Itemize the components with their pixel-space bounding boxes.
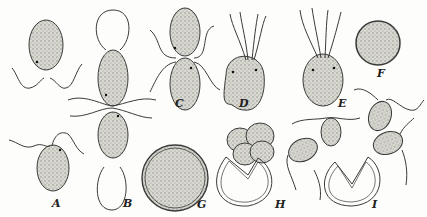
- label-e: E: [338, 98, 346, 109]
- label-f: F: [377, 68, 385, 79]
- label-h: H: [275, 199, 285, 210]
- biology-figure: A B C D E F G H I: [0, 0, 427, 217]
- cell-a-lower: [9, 133, 84, 191]
- label-i: I: [372, 199, 377, 210]
- label-d: D: [239, 98, 249, 109]
- cell-d: [224, 12, 266, 110]
- cyst-f: [356, 21, 400, 65]
- cell-e: [300, 8, 343, 106]
- organism-drawings: [0, 0, 427, 217]
- cell-c: [150, 8, 220, 110]
- label-c: C: [175, 98, 184, 109]
- label-a: A: [52, 198, 61, 209]
- cell-a-upper: [12, 20, 82, 88]
- label-g: G: [197, 199, 206, 210]
- cyst-h: [217, 123, 274, 206]
- label-b: B: [123, 198, 132, 209]
